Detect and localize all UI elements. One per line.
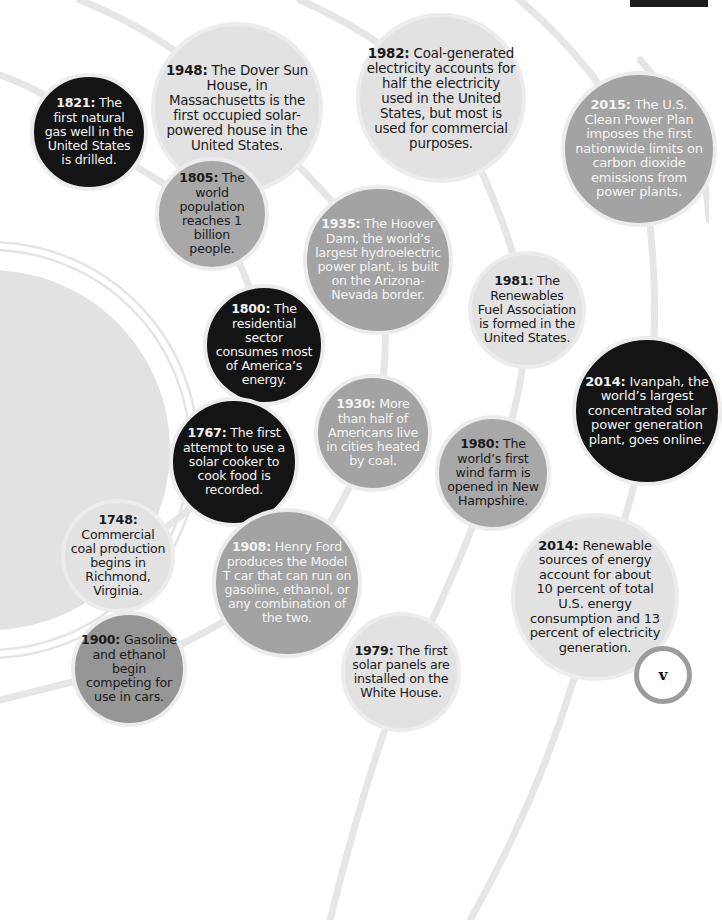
event-year: 1800: (231, 301, 270, 316)
event-year: 2015: (590, 97, 630, 112)
event-year: 2014: (585, 374, 625, 389)
event-year: 1948: (166, 63, 208, 78)
page-number: v (659, 666, 668, 684)
event-text: Coal-generated electricity accounts for … (367, 46, 516, 151)
event-1930: 1930: More than half of Americans live i… (314, 374, 432, 492)
event-text: Commercial coal production begins in Ric… (71, 527, 165, 599)
event-year: 1935: (321, 216, 360, 231)
event-1821: 1821: The first natural gas well in the … (30, 73, 148, 191)
event-year: 2014: (538, 538, 578, 553)
event-year: 1979: (354, 643, 393, 658)
event-1935: 1935: The Hoover Dam, the world’s larges… (303, 185, 453, 335)
event-text: The U.S. Clean Power Plan imposes the fi… (575, 97, 702, 200)
page-number-badge: v (634, 646, 692, 704)
event-year: 1900: (81, 632, 120, 647)
event-1980: 1980: The world’s first wind farm is ope… (435, 415, 551, 531)
event-year: 1767: (187, 425, 226, 440)
event-1748: 1748: Commercial coal production begins … (61, 499, 175, 613)
event-year: 1981: (494, 273, 533, 288)
event-year: 1930: (336, 396, 375, 411)
event-year: 1748: (98, 512, 137, 527)
event-1981: 1981: The Renewables Fuel Association is… (468, 251, 586, 369)
event-year: 1805: (179, 170, 218, 185)
event-year: 1980: (460, 436, 499, 451)
event-year: 1908: (232, 539, 271, 554)
event-1979: 1979: The first solar panels are install… (341, 612, 461, 732)
header-bar (630, 0, 708, 7)
event-1900: 1900: Gasoline and ethanol begin competi… (71, 611, 187, 727)
event-year: 1821: (56, 95, 95, 110)
event-1800: 1800: The residential sector consumes mo… (203, 284, 325, 406)
event-1805: 1805: The world population reaches 1 bil… (155, 157, 269, 271)
event-year: 1982: (368, 46, 410, 61)
event-1908: 1908: Henry Ford produces the Model T ca… (212, 508, 362, 658)
event-2014-ivanpah: 2014: Ivanpah, the world’s largest conce… (572, 336, 722, 486)
event-2015: 2015: The U.S. Clean Power Plan imposes … (561, 71, 717, 227)
event-text: Renewable sources of energy account for … (530, 538, 661, 655)
event-1982: 1982: Coal-generated electricity account… (356, 13, 526, 183)
